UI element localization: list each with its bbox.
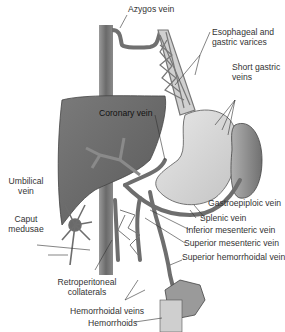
label-inferior-mesenteric-vein: Inferior mesenteric vein (186, 225, 275, 235)
label-hemorrhoids: Hemorrhoids (88, 318, 137, 328)
label-umbilical-1: Umbilical (6, 176, 46, 186)
label-short-gastric-1: Short gastric (232, 62, 280, 72)
label-short-gastric-2: veins (232, 72, 252, 82)
label-umbilical-2: vein (6, 186, 46, 196)
label-gastroepiploic-vein: Gastroepiploic vein (208, 198, 281, 208)
label-caput-1: Caput (6, 214, 46, 224)
label-retroperitoneal-1: Retroperitoneal (52, 277, 122, 287)
label-esophageal-varices-2: gastric varices (212, 37, 267, 47)
label-azygos-vein: Azygos vein (128, 4, 174, 14)
label-hemorrhoidal-veins: Hemorrhoidal veins (70, 306, 144, 316)
label-coronary-vein: Coronary vein (99, 108, 153, 118)
anatomy-illustration (0, 0, 285, 332)
label-esophageal-varices-1: Esophageal and (212, 27, 274, 37)
rectum (160, 280, 205, 332)
label-superior-mesenteric-vein: Superior mesenteric vein (184, 238, 279, 248)
azygos-vein (112, 30, 160, 48)
label-superior-hemorrhoidal-vein: Superior hemorrhoidal vein (182, 252, 285, 262)
label-splenic-vein: Splenic vein (200, 213, 246, 223)
label-caput-2: medusae (6, 224, 46, 234)
label-retroperitoneal-2: collaterals (52, 287, 122, 297)
